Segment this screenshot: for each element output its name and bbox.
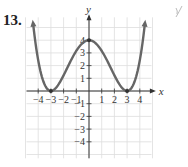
svg-text:−2: −2 — [74, 111, 85, 122]
svg-text:1: 1 — [99, 94, 104, 105]
y-axis-label: y — [85, 3, 91, 15]
svg-text:2: 2 — [112, 94, 117, 105]
svg-text:−1: −1 — [74, 98, 85, 109]
svg-text:3: 3 — [125, 94, 130, 105]
svg-text:2: 2 — [80, 60, 85, 71]
svg-text:−4: −4 — [74, 136, 85, 147]
svg-text:−2: −2 — [58, 94, 69, 105]
svg-text:−4: −4 — [33, 94, 44, 105]
svg-text:3: 3 — [80, 47, 85, 58]
function-graph: −4−3−2−11234−4−3−2−11234 x y — [0, 0, 188, 167]
x-axis-label: x — [158, 85, 164, 97]
svg-text:4: 4 — [137, 94, 142, 105]
svg-text:−3: −3 — [74, 124, 85, 135]
svg-text:−3: −3 — [46, 94, 57, 105]
svg-text:1: 1 — [80, 73, 85, 84]
